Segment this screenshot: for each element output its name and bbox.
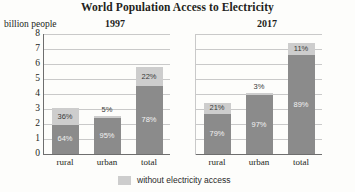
- bar-2017-total: 11%89%: [288, 43, 315, 154]
- label-with-pct: 97%: [246, 121, 273, 129]
- segment-with-access: 78%: [136, 86, 163, 154]
- category-label-1997-urban: urban: [84, 157, 130, 167]
- label-without-pct: 5%: [90, 106, 125, 114]
- segment-without-access: 22%: [136, 67, 163, 86]
- label-with-pct: 78%: [136, 116, 163, 124]
- segment-without-access: 21%: [204, 103, 231, 114]
- y-tick-6: 6: [12, 59, 40, 69]
- chart-title: World Population Access to Electricity: [0, 1, 355, 13]
- y-tick-5: 5: [12, 74, 40, 84]
- legend-swatch-without-access: [118, 176, 131, 185]
- bar-1997-rural: 36%64%: [52, 108, 79, 154]
- label-with-pct: 64%: [52, 135, 79, 143]
- category-label-1997-rural: rural: [42, 157, 88, 167]
- gridline-8: [44, 34, 170, 35]
- panel-title-1997: 1997: [60, 18, 170, 29]
- plot-area-1997: 36%64%5%95%22%78%: [44, 34, 170, 154]
- category-label-2017-total: total: [278, 157, 324, 167]
- y-tick-0: 0: [12, 149, 40, 159]
- panel-title-2017: 2017: [212, 18, 322, 29]
- category-label-2017-rural: rural: [194, 157, 240, 167]
- label-without-pct: 3%: [242, 83, 277, 91]
- axis-baseline: [196, 154, 322, 155]
- label-without-pct: 21%: [204, 104, 231, 112]
- gridline-7: [44, 49, 170, 50]
- y-tick-8: 8: [12, 29, 40, 39]
- category-label-1997-total: total: [126, 157, 172, 167]
- label-without-pct: 11%: [288, 45, 315, 53]
- gridline-6: [44, 64, 170, 65]
- y-axis-ticks: 876543210: [8, 34, 40, 155]
- segment-with-access: 89%: [288, 55, 315, 154]
- legend: without electricity access: [118, 175, 231, 185]
- segment-with-access: 97%: [246, 95, 273, 154]
- plot-area-2017: 21%79%3%97%11%89%: [196, 34, 322, 154]
- y-tick-2: 2: [12, 119, 40, 129]
- y-tick-4: 4: [12, 89, 40, 99]
- segment-without-access: 11%: [288, 43, 315, 55]
- label-without-pct: 36%: [52, 113, 79, 121]
- segment-with-access: 95%: [94, 118, 121, 154]
- axis-baseline: [44, 154, 170, 155]
- bar-2017-rural: 21%79%: [204, 103, 231, 154]
- y-axis-label: billion people: [4, 19, 57, 29]
- bar-2017-urban: 97%: [246, 93, 273, 154]
- bar-1997-total: 22%78%: [136, 67, 163, 154]
- gridline-8: [196, 34, 322, 35]
- y-tick-1: 1: [12, 134, 40, 144]
- category-label-2017-urban: urban: [236, 157, 282, 167]
- label-with-pct: 79%: [204, 130, 231, 138]
- y-tick-3: 3: [12, 104, 40, 114]
- label-without-pct: 22%: [136, 73, 163, 81]
- y-tick-7: 7: [12, 44, 40, 54]
- segment-with-access: 64%: [52, 125, 79, 154]
- chart-figure: World Population Access to Electricity b…: [0, 0, 355, 192]
- legend-label-without-access: without electricity access: [137, 175, 231, 185]
- segment-with-access: 79%: [204, 114, 231, 154]
- label-with-pct: 95%: [94, 132, 121, 140]
- segment-without-access: 36%: [52, 108, 79, 125]
- label-with-pct: 89%: [288, 101, 315, 109]
- bar-1997-urban: 95%: [94, 116, 121, 154]
